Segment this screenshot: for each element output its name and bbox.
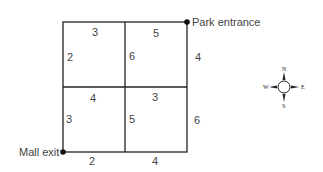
weight-middle-left: 4	[90, 92, 96, 104]
street-grid	[63, 22, 187, 152]
mall-exit-label: Mall exit	[19, 146, 59, 158]
weight-bottom-right: 4	[152, 155, 158, 167]
compass-north: N	[282, 66, 287, 72]
weight-center-upper: 6	[129, 50, 135, 62]
compass-east: E	[301, 84, 305, 90]
weight-left-lower: 3	[66, 113, 72, 125]
weight-top-right: 5	[153, 27, 159, 39]
weight-middle-right: 3	[152, 91, 158, 103]
weight-right-upper: 4	[195, 51, 201, 63]
park-entrance-label: Park entrance	[192, 16, 260, 28]
park-entrance-dot	[184, 19, 190, 25]
weight-left-upper: 2	[67, 51, 73, 63]
compass-south: S	[282, 103, 285, 109]
weight-bottom-left: 2	[89, 155, 95, 167]
compass-rose-icon: N S W E	[263, 66, 305, 109]
weight-center-lower: 5	[129, 113, 135, 125]
mall-exit-dot	[60, 149, 66, 155]
street-map: Mall exit Park entrance 3 5 4 3 2 4 2 3 …	[0, 0, 323, 172]
weight-right-lower: 6	[194, 114, 200, 126]
compass-west: W	[263, 84, 269, 90]
weight-top-left: 3	[92, 26, 98, 38]
